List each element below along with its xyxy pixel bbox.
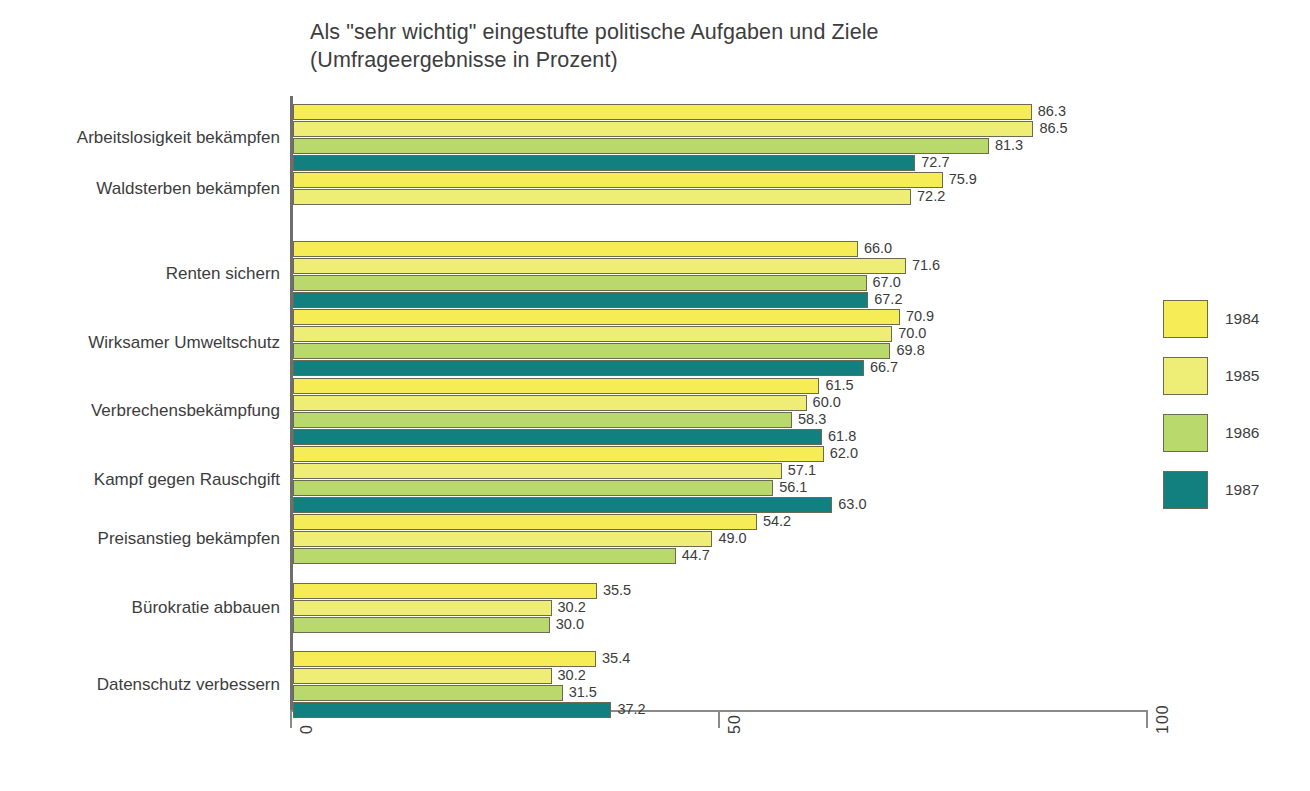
bar-1984 <box>293 172 943 188</box>
bar-1986 <box>293 480 773 496</box>
category-label: Datenschutz verbessern <box>97 675 280 695</box>
plot-area: 86.386.581.372.775.972.266.071.667.067.2… <box>290 96 1150 712</box>
bar-value-label: 66.0 <box>864 239 892 258</box>
category-label: Arbeitslosigkeit bekämpfen <box>77 128 280 148</box>
bar-1986 <box>293 685 563 701</box>
legend-swatch-1984 <box>1163 300 1208 338</box>
bar-1986 <box>293 617 550 633</box>
chart-title: Als "sehr wichtig" eingestufte politisch… <box>310 18 1090 46</box>
bar-1986 <box>293 548 676 564</box>
bar-1985 <box>293 668 552 684</box>
bar-value-label: 37.2 <box>617 700 645 719</box>
x-tick <box>1146 712 1148 728</box>
legend-swatch-1985 <box>1163 357 1208 395</box>
bar-1984 <box>293 583 597 599</box>
bar-1984 <box>293 514 757 530</box>
bar-value-label: 69.8 <box>896 341 924 360</box>
bar-1987 <box>293 497 832 513</box>
bar-1987 <box>293 155 915 171</box>
category-label: Waldsterben bekämpfen <box>96 179 280 199</box>
bar-value-label: 35.5 <box>603 581 631 600</box>
category-label: Kampf gegen Rauschgift <box>94 470 280 490</box>
bar-1986 <box>293 138 989 154</box>
chart-figure: Als "sehr wichtig" eingestufte politisch… <box>0 0 1310 791</box>
bar-value-label: 72.2 <box>917 187 945 206</box>
bar-1987 <box>293 429 822 445</box>
bar-value-label: 71.6 <box>912 256 940 275</box>
bar-value-label: 67.2 <box>874 290 902 309</box>
bar-value-label: 58.3 <box>798 410 826 429</box>
bar-value-label: 54.2 <box>763 512 791 531</box>
bar-value-label: 44.7 <box>682 546 710 565</box>
legend-swatch-1987 <box>1163 471 1208 509</box>
bar-value-label: 31.5 <box>569 683 597 702</box>
category-label: Bürokratie abbauen <box>132 598 280 618</box>
bar-1986 <box>293 275 867 291</box>
bar-value-label: 63.0 <box>838 495 866 514</box>
x-tick-label: 0 <box>298 724 316 734</box>
category-label: Verbrechensbekämpfung <box>91 401 280 421</box>
x-tick-label: 100 <box>1154 704 1172 734</box>
bar-1985 <box>293 531 712 547</box>
chart-title-block: Als "sehr wichtig" eingestufte politisch… <box>310 18 1090 74</box>
bar-1985 <box>293 395 807 411</box>
bar-1987 <box>293 360 864 376</box>
bar-value-label: 66.7 <box>870 358 898 377</box>
bar-value-label: 86.5 <box>1039 119 1067 138</box>
bar-value-label: 81.3 <box>995 136 1023 155</box>
bar-1985 <box>293 258 906 274</box>
bar-1986 <box>293 412 792 428</box>
bar-1986 <box>293 343 890 359</box>
legend-swatch-1986 <box>1163 414 1208 452</box>
bar-1984 <box>293 651 596 667</box>
bar-1984 <box>293 309 900 325</box>
bar-1984 <box>293 104 1032 120</box>
bar-value-label: 61.8 <box>828 427 856 446</box>
bar-value-label: 62.0 <box>830 444 858 463</box>
bar-1987 <box>293 702 611 718</box>
legend-label: 1985 <box>1225 367 1259 385</box>
bar-1987 <box>293 292 868 308</box>
x-tick <box>718 712 720 728</box>
bar-1985 <box>293 326 892 342</box>
legend-label: 1986 <box>1225 424 1259 442</box>
category-label: Renten sichern <box>166 264 280 284</box>
bar-1984 <box>293 241 858 257</box>
category-label: Preisanstieg bekämpfen <box>98 529 280 549</box>
bar-1984 <box>293 446 824 462</box>
category-label: Wirksamer Umweltschutz <box>88 333 280 353</box>
bar-value-label: 75.9 <box>949 170 977 189</box>
bar-value-label: 30.0 <box>556 615 584 634</box>
bar-value-label: 72.7 <box>921 153 949 172</box>
chart-subtitle: (Umfrageergebnisse in Prozent) <box>310 46 1090 74</box>
bar-1985 <box>293 189 911 205</box>
x-tick-label: 50 <box>726 714 744 734</box>
bar-value-label: 56.1 <box>779 478 807 497</box>
bar-1985 <box>293 121 1033 137</box>
bar-1985 <box>293 600 552 616</box>
legend-label: 1987 <box>1225 481 1259 499</box>
bar-1984 <box>293 378 819 394</box>
bar-1985 <box>293 463 782 479</box>
bar-value-label: 49.0 <box>718 529 746 548</box>
bar-value-label: 35.4 <box>602 649 630 668</box>
x-tick <box>290 712 292 728</box>
legend-label: 1984 <box>1225 310 1259 328</box>
